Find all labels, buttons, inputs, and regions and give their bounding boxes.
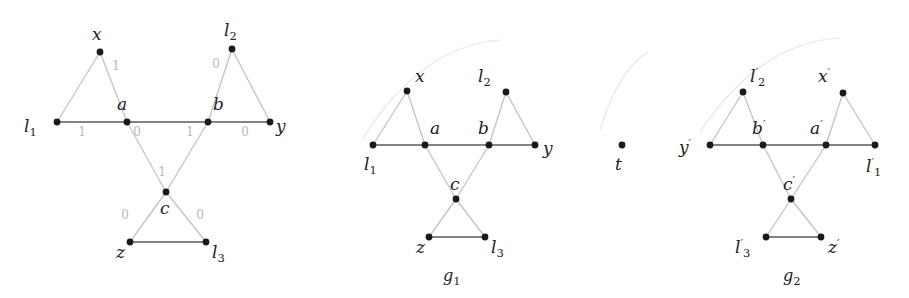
- graph-caption-g2: g2: [783, 266, 801, 288]
- node-label-g1-y: y: [542, 138, 553, 158]
- edge-g2-cp-l3p: [766, 199, 791, 237]
- node-label-g2-l2p: l′2: [750, 66, 765, 90]
- edge-weight-left-graph-b-y: 0: [241, 125, 249, 139]
- node-label-g2-zp: z′: [827, 237, 840, 258]
- node-g2-yp: [707, 142, 714, 149]
- edge-weight-left-graph-a-c: 0: [133, 125, 141, 139]
- edge-g1-c-l3: [456, 199, 485, 237]
- node-label-left-graph-x: x: [92, 24, 102, 44]
- edge-g2-yp-l2p: [710, 92, 743, 145]
- node-label-g1-a: a: [430, 118, 440, 138]
- node-g1-x: [404, 88, 411, 95]
- node-label-left-graph-a: a: [117, 94, 127, 114]
- node-g1-z: [426, 234, 433, 241]
- node-g2-l1p: [872, 142, 879, 149]
- edge-weight-left-graph-b-l2: 0: [212, 57, 220, 71]
- edge-g1-c-b: [456, 145, 489, 199]
- edge-g1-l2-y: [506, 92, 535, 145]
- node-label-g1-x: x: [415, 66, 425, 86]
- node-label-left-graph-l3: l3: [212, 242, 225, 265]
- node-left-graph-c: [163, 189, 170, 196]
- edge-weight-left-graph-center: 1: [158, 165, 166, 179]
- ghost-arc-1: [600, 52, 648, 130]
- graph-caption-g1: g1: [443, 266, 461, 288]
- node-label-g1-l2: l2: [478, 66, 491, 89]
- node-g1-b: [486, 142, 493, 149]
- node-left-graph-x: [97, 49, 104, 56]
- node-g2-l2p: [740, 89, 747, 96]
- edge-weight-left-graph-c-z: 0: [121, 208, 129, 222]
- node-label-isolated-t: t: [615, 154, 622, 174]
- edge-g1-c-z: [429, 199, 456, 237]
- node-label-g2-yp: y′: [678, 137, 692, 158]
- node-label-g2-ap: a′: [810, 118, 823, 139]
- node-left-graph-a: [124, 119, 131, 126]
- node-g1-y: [532, 142, 539, 149]
- node-g1-l1: [370, 142, 377, 149]
- node-left-graph-l3: [203, 239, 210, 246]
- node-label-left-graph-l2: l2: [224, 20, 237, 43]
- figure-canvas: xl2l1abyczl3xl2l1abyczl3l′2x′y′b′a′l′1c′…: [0, 0, 909, 298]
- node-isolated-t: [619, 142, 626, 149]
- node-label-left-graph-y: y: [275, 116, 286, 136]
- graph-captions-group: g1g2: [443, 266, 801, 288]
- node-left-graph-y: [267, 119, 274, 126]
- node-g2-l3p: [763, 234, 770, 241]
- edge-g2-cp-zp: [791, 199, 821, 237]
- edge-left-graph-l1-x: [57, 52, 100, 122]
- node-left-graph-b: [205, 119, 212, 126]
- node-left-graph-l1: [54, 119, 61, 126]
- node-g1-l2: [503, 89, 510, 96]
- edge-weight-left-graph-c-b: 1: [186, 125, 194, 139]
- edge-g1-l1-x: [373, 91, 407, 145]
- node-label-left-graph-c: c: [160, 198, 170, 218]
- node-label-g1-z: z: [415, 237, 426, 257]
- node-label-left-graph-b: b: [213, 94, 224, 114]
- node-left-graph-l2: [229, 46, 236, 53]
- node-g2-cp: [788, 196, 795, 203]
- graph-diagram: xl2l1abyczl3xl2l1abyczl3l′2x′y′b′a′l′1c′…: [0, 0, 909, 298]
- node-label-g2-cp: c′: [783, 174, 796, 195]
- edge-g2-xp-l1p: [843, 93, 875, 145]
- node-label-g1-c: c: [450, 174, 460, 194]
- edge-g1-b-l2: [489, 92, 506, 145]
- edge-left-graph-l2-y: [232, 49, 270, 122]
- node-label-g1-b: b: [478, 118, 489, 138]
- node-label-left-graph-l1: l1: [24, 116, 37, 139]
- edge-weight-left-graph-c-l3: 0: [196, 208, 204, 222]
- node-label-g2-l3p: l′3: [735, 237, 750, 261]
- node-label-left-graph-z: z: [115, 242, 126, 262]
- node-label-g2-xp: x′: [818, 66, 831, 87]
- node-g1-c: [453, 196, 460, 203]
- node-g2-xp: [840, 90, 847, 97]
- edge-g2-ap-xp: [826, 93, 843, 145]
- node-label-g2-bp: b′: [752, 118, 766, 139]
- node-g1-l3: [482, 234, 489, 241]
- vertex-labels-group: xl2l1abyczl3xl2l1abyczl3l′2x′y′b′a′l′1c′…: [24, 20, 881, 265]
- edge-weight-left-graph-l1-a: 1: [78, 125, 86, 139]
- node-left-graph-z: [127, 239, 134, 246]
- node-g2-zp: [818, 234, 825, 241]
- node-label-g1-l1: l1: [364, 154, 377, 177]
- node-g2-ap: [823, 142, 830, 149]
- node-g2-bp: [760, 142, 767, 149]
- edge-weight-left-graph-x-a: 1: [112, 59, 120, 73]
- node-label-g1-l3: l3: [491, 237, 504, 260]
- node-g1-a: [422, 142, 429, 149]
- node-label-g2-l1p: l′1: [866, 156, 881, 180]
- edge-g2-cp-ap: [791, 145, 826, 199]
- edge-g1-x-a: [407, 91, 425, 145]
